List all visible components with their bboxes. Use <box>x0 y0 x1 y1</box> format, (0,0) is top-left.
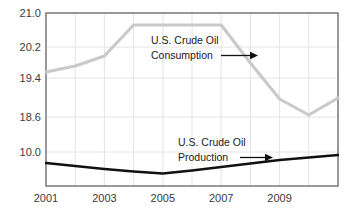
production-annotation-line2: Production <box>178 151 228 163</box>
consumption-annotation-line1: U.S. Crude Oil <box>151 34 219 46</box>
x-tick-label-2001: 2001 <box>34 192 58 204</box>
x-tick-label-2009: 2009 <box>267 192 291 204</box>
y-tick-label-10-0: 10.0 <box>20 146 41 158</box>
production-annotation-line1: U.S. Crude Oil <box>178 136 246 148</box>
consumption-annotation-line2: Consumption <box>151 49 213 61</box>
chart-container: 21.0 20.2 19.4 18.6 10.0 2001 2003 2005 … <box>0 0 350 216</box>
y-tick-label-18-6: 18.6 <box>20 111 41 123</box>
line-chart: 21.0 20.2 19.4 18.6 10.0 2001 2003 2005 … <box>0 0 350 216</box>
x-tick-label-2007: 2007 <box>209 192 233 204</box>
y-tick-label-19-4: 19.4 <box>20 72 41 84</box>
y-tick-label-20-2: 20.2 <box>20 41 41 53</box>
x-tick-label-2003: 2003 <box>92 192 116 204</box>
y-tick-label-21-0: 21.0 <box>20 7 41 19</box>
x-tick-label-2005: 2005 <box>151 192 175 204</box>
